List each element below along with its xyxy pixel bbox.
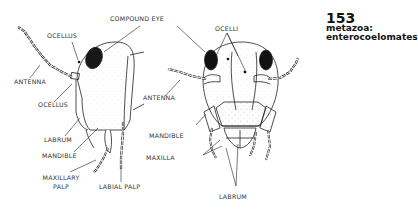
label-maxillary-palp: MAXILLARY PALP: [40, 175, 82, 191]
label-maxilla: MAXILLA: [146, 155, 175, 161]
label-labrum-side: LABRUM: [44, 137, 72, 143]
compound-eye-left-icon: [205, 50, 218, 70]
label-antenna-side: ANTENNA: [14, 79, 46, 85]
label-ocelli: OCELLI: [215, 26, 238, 32]
label-mandible-front: MANDIBLE: [149, 133, 184, 139]
page-subtitle: metazoa: enterocoelomates: [326, 24, 418, 43]
subtitle-line2: enterocoelomates: [326, 32, 418, 42]
front-view-head: [168, 42, 298, 160]
label-labial-palp: LABIAL PALP: [99, 184, 140, 190]
label-mandible-side: MANDIBLE: [42, 153, 77, 159]
label-maxillary-palp-line1: MAXILLARY: [43, 174, 80, 181]
label-compound-eye: COMPOUND EYE: [110, 16, 164, 22]
side-view-head: [18, 27, 144, 172]
label-antenna-front: ANTENNA: [143, 95, 175, 101]
label-labrum-front: LABRUM: [219, 194, 247, 200]
label-maxillary-palp-line2: PALP: [53, 184, 69, 190]
label-ocellus-bottom: OCELLUS: [38, 102, 68, 108]
label-ocellus-top: OCELLUS: [47, 33, 77, 39]
